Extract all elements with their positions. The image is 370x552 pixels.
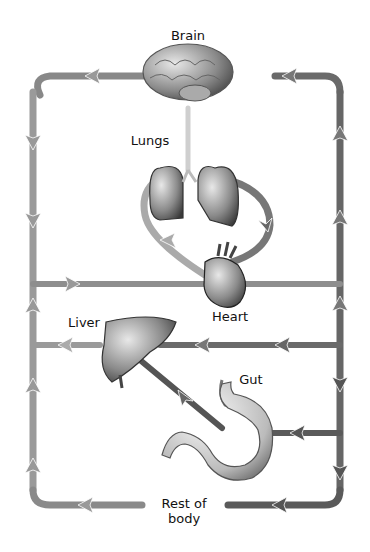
lungs-icon [150,167,239,227]
label-rest-of-body-line2: body [148,511,220,526]
label-gut: Gut [233,372,269,387]
circulation-diagram [0,0,370,552]
brain-icon [143,44,233,101]
label-liver: Liver [62,315,106,330]
label-heart: Heart [205,309,255,324]
label-rest-of-body: Rest of body [148,496,220,526]
label-lungs: Lungs [125,133,175,148]
heart-icon [204,242,246,307]
label-brain: Brain [160,28,216,43]
label-rest-of-body-line1: Rest of [148,496,220,511]
